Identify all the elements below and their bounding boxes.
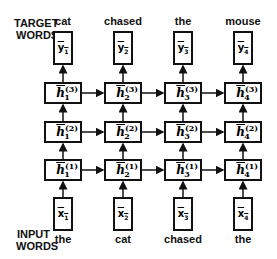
hidden-state-symbol: h(3)2 <box>116 84 129 102</box>
hidden-state-node: h(2)3 <box>164 121 202 143</box>
hidden-state-node: h(1)4 <box>224 159 262 181</box>
output-symbol: y1 <box>58 42 69 55</box>
hidden-state-node: h(3)1 <box>44 82 82 104</box>
hidden-state-node: h(2)1 <box>44 121 82 143</box>
input-symbol: x4 <box>238 208 249 221</box>
hidden-state-node: h(3)3 <box>164 82 202 104</box>
hidden-state-symbol: h(3)1 <box>56 84 69 102</box>
input-node: x1 <box>53 197 73 231</box>
hidden-state-node: h(1)3 <box>164 159 202 181</box>
input-word: the <box>33 233 93 245</box>
hidden-state-symbol: h(2)3 <box>176 123 189 141</box>
hidden-state-symbol: h(3)4 <box>236 84 249 102</box>
hidden-state-node: h(3)2 <box>104 82 142 104</box>
input-word: cat <box>93 233 153 245</box>
hidden-state-symbol: h(3)3 <box>176 84 189 102</box>
hidden-state-node: h(1)2 <box>104 159 142 181</box>
input-word: chased <box>153 233 213 245</box>
output-symbol: y4 <box>238 42 249 55</box>
input-symbol: x2 <box>118 208 129 221</box>
target-words-label-2: WORDS <box>16 29 58 41</box>
hidden-state-node: h(2)4 <box>224 121 262 143</box>
hidden-state-symbol: h(1)2 <box>116 161 129 179</box>
hidden-state-node: h(3)4 <box>224 82 262 104</box>
rnn-diagram: TARGET WORDS INPUT WORDS catthey1x1h(3)1… <box>0 0 277 259</box>
input-symbol: x3 <box>178 208 189 221</box>
hidden-state-symbol: h(1)4 <box>236 161 249 179</box>
target-word: chased <box>93 15 153 27</box>
hidden-state-node: h(2)2 <box>104 121 142 143</box>
target-word: the <box>153 15 213 27</box>
input-word: the <box>213 233 273 245</box>
hidden-state-node: h(1)1 <box>44 159 82 181</box>
target-word: mouse <box>213 15 273 27</box>
output-node: y2 <box>113 31 133 65</box>
output-symbol: y3 <box>178 42 189 55</box>
input-symbol: x1 <box>58 208 69 221</box>
hidden-state-symbol: h(1)3 <box>176 161 189 179</box>
hidden-state-symbol: h(2)1 <box>56 123 69 141</box>
input-node: x2 <box>113 197 133 231</box>
output-node: y3 <box>173 31 193 65</box>
target-word: cat <box>33 15 93 27</box>
hidden-state-symbol: h(2)2 <box>116 123 129 141</box>
hidden-state-symbol: h(1)1 <box>56 161 69 179</box>
input-node: x3 <box>173 197 193 231</box>
hidden-state-symbol: h(2)4 <box>236 123 249 141</box>
output-node: y1 <box>53 31 73 65</box>
output-node: y4 <box>233 31 253 65</box>
input-node: x4 <box>233 197 253 231</box>
output-symbol: y2 <box>118 42 129 55</box>
